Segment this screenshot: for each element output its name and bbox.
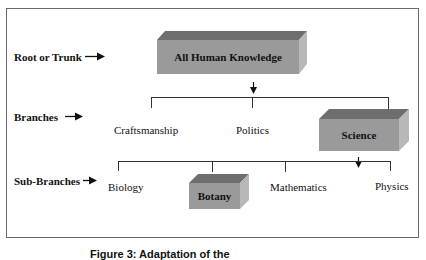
branch-tick-politics bbox=[252, 97, 253, 108]
node-sub-branch-botany-label: Botany bbox=[189, 183, 240, 209]
node-branch-craftsmanship: Craftsmanship bbox=[114, 124, 178, 136]
sub-branch-tick-mathematics bbox=[285, 161, 286, 172]
node-branch-politics: Politics bbox=[236, 124, 269, 136]
node-root-all-human-knowledge: All Human Knowledge bbox=[157, 31, 307, 75]
figure-caption: Figure 3: Adaptation of the bbox=[90, 248, 230, 260]
node-sub-branch-botany: Botany bbox=[189, 174, 249, 210]
level-label-root-text: Root or Trunk bbox=[14, 51, 82, 63]
node-sub-branch-biology: Biology bbox=[108, 181, 143, 193]
branch-connector-line bbox=[151, 97, 389, 98]
node-sub-branch-mathematics: Mathematics bbox=[270, 181, 327, 193]
level-label-branches-text: Branches bbox=[14, 111, 58, 123]
right-arrow-icon bbox=[65, 111, 83, 123]
sub-branch-tick-physics bbox=[390, 161, 391, 171]
level-label-root: Root or Trunk bbox=[14, 51, 105, 63]
right-arrow-icon bbox=[85, 51, 105, 63]
sub-branch-tick-botany bbox=[212, 161, 213, 172]
level-label-branches: Branches bbox=[14, 111, 83, 123]
sub-branch-tick-biology bbox=[118, 161, 119, 171]
sub-branch-connector-line bbox=[118, 161, 391, 162]
level-label-sub-branches-text: Sub-Branches bbox=[14, 175, 80, 187]
branch-tick-craftsmanship bbox=[151, 97, 152, 108]
level-label-sub-branches: Sub-Branches bbox=[14, 175, 97, 187]
node-branch-science-label: Science bbox=[319, 119, 399, 151]
node-branch-science: Science bbox=[319, 109, 409, 153]
node-sub-branch-physics: Physics bbox=[375, 180, 409, 192]
node-root-label: All Human Knowledge bbox=[157, 40, 299, 74]
right-arrow-icon bbox=[83, 175, 97, 187]
